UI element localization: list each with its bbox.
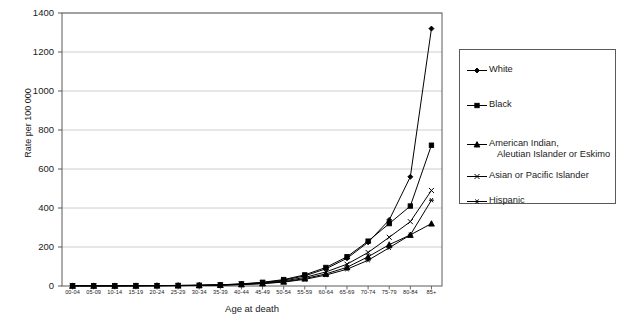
legend-label: Asian or Pacific Islander xyxy=(488,170,589,181)
x-tick-label: 20-24 xyxy=(150,289,165,295)
plot-frame xyxy=(62,13,442,286)
marker-diamond xyxy=(429,26,434,31)
marker-square xyxy=(475,103,479,107)
series-black xyxy=(70,143,433,288)
series-white xyxy=(70,26,434,288)
marker-square xyxy=(387,221,391,225)
series-line xyxy=(73,190,432,285)
x-tick-label: 70-74 xyxy=(361,289,376,295)
x-tick-label: 30-34 xyxy=(192,289,207,295)
series-asian-or-pacific-islander xyxy=(70,188,434,288)
x-tick-label: 85+ xyxy=(427,289,437,295)
marker-triangle xyxy=(429,221,435,226)
marker-diamond xyxy=(408,174,413,179)
legend-item-hispanic[interactable]: Hispanic xyxy=(466,195,525,207)
x-tick-label: 05-09 xyxy=(86,289,101,295)
legend-label: Black xyxy=(488,99,512,110)
x-tick-label: 10-14 xyxy=(107,289,122,295)
x-tick-label: 50-54 xyxy=(276,289,291,295)
x-axis-label: Age at death xyxy=(0,303,504,314)
x-tick-label: 15-19 xyxy=(128,289,143,295)
x-tick-label: 55-59 xyxy=(297,289,312,295)
x-tick-label: 00-04 xyxy=(65,289,80,295)
marker-square xyxy=(345,255,349,259)
series-american-indian-aleutian-islander-or-eskimo xyxy=(70,221,435,289)
x-tick-label: 75-79 xyxy=(382,289,397,295)
legend-label: White xyxy=(488,64,513,75)
series-line xyxy=(73,145,432,286)
series-line xyxy=(73,200,432,286)
x-tick-label: 45-49 xyxy=(255,289,270,295)
marker-square xyxy=(324,265,328,269)
chart-legend: WhiteBlackAmerican Indian,Aleutian Islan… xyxy=(459,49,616,204)
legend-label: Hispanic xyxy=(488,195,525,206)
legend-item-white[interactable]: White xyxy=(466,64,513,76)
legend-item-black[interactable]: Black xyxy=(466,99,512,111)
legend-marker-asterisk xyxy=(466,196,488,207)
marker-square xyxy=(429,143,433,147)
legend-marker-cross xyxy=(466,171,488,182)
legend-label: American Indian,Aleutian Islander or Esk… xyxy=(488,138,610,160)
x-tick-label: 35-39 xyxy=(213,289,228,295)
x-tick-label: 25-29 xyxy=(171,289,186,295)
x-tick-label: 80-84 xyxy=(403,289,418,295)
x-tick-label: 60-64 xyxy=(318,289,333,295)
legend-item-american-indian[interactable]: American Indian,Aleutian Islander or Esk… xyxy=(466,138,610,160)
marker-square xyxy=(408,204,412,208)
marker-square xyxy=(366,239,370,243)
x-tick-label: 40-44 xyxy=(234,289,249,295)
legend-marker-diamond xyxy=(466,65,488,76)
legend-marker-triangle xyxy=(466,139,488,150)
marker-diamond xyxy=(475,68,480,73)
legend-marker-square xyxy=(466,100,488,111)
chart-figure: Rate per 100 000 02004006008001000120014… xyxy=(0,0,624,324)
legend-item-asian-or-pacific-islander[interactable]: Asian or Pacific Islander xyxy=(466,170,589,182)
x-tick-label: 65-69 xyxy=(340,289,355,295)
series-hispanic xyxy=(70,198,434,288)
legend-label-line2: Aleutian Islander or Eskimo xyxy=(489,149,610,160)
